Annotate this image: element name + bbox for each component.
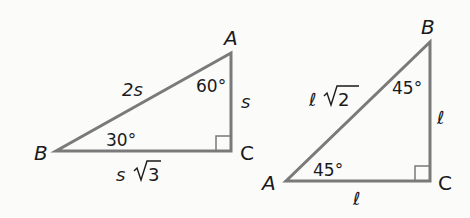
side-label-vertical-leg: ℓ [436, 107, 444, 128]
hypotenuse-variable: ℓ [308, 89, 316, 110]
side-label-hypotenuse: ℓ 2 [308, 86, 359, 110]
vertex-label-c: C [240, 141, 254, 165]
angle-label-b: 45° [392, 78, 422, 98]
triangle-outline [286, 42, 430, 181]
vertex-label-c: C [438, 171, 452, 195]
side-label-hypotenuse: 2s [122, 79, 143, 100]
vertex-label-b: B [34, 141, 48, 165]
triangle-30-60-90: A B C 60° 30° 2s s s 3 [34, 26, 254, 185]
vertex-label-a: A [222, 26, 238, 50]
triangle-45-45-90: A B C 45° 45° ℓ 2 ℓ ℓ [260, 15, 452, 209]
vertex-label-b: B [421, 15, 435, 39]
diagram-canvas: A B C 60° 30° 2s s s 3 A B C 45° 45° ℓ 2… [0, 0, 470, 218]
side-label-short-leg: s [241, 91, 250, 112]
right-angle-marker [415, 166, 430, 181]
angle-label-a: 45° [313, 160, 343, 180]
long-leg-variable: s [116, 164, 125, 185]
side-label-long-leg: s 3 [116, 161, 161, 185]
long-leg-radicand: 3 [148, 164, 159, 185]
right-angle-marker [216, 136, 231, 151]
triangle-outline [56, 53, 231, 151]
angle-label-b: 30° [106, 130, 136, 150]
vertex-label-a: A [260, 171, 276, 195]
side-label-horizontal-leg: ℓ [352, 188, 360, 209]
angle-label-a: 60° [196, 76, 226, 96]
hypotenuse-radicand: 2 [338, 89, 349, 110]
